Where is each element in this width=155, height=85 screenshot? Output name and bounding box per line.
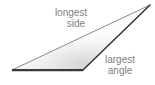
longest-side-label: longest side bbox=[47, 7, 95, 29]
longest-side-label-line1: longest bbox=[47, 7, 95, 18]
largest-angle-label: largest angle bbox=[95, 54, 145, 76]
largest-angle-label-line2: angle bbox=[95, 65, 145, 76]
largest-angle-label-line1: largest bbox=[95, 54, 145, 65]
triangle-diagram: longest side largest angle bbox=[0, 0, 155, 85]
longest-side-label-line2: side bbox=[47, 18, 95, 29]
